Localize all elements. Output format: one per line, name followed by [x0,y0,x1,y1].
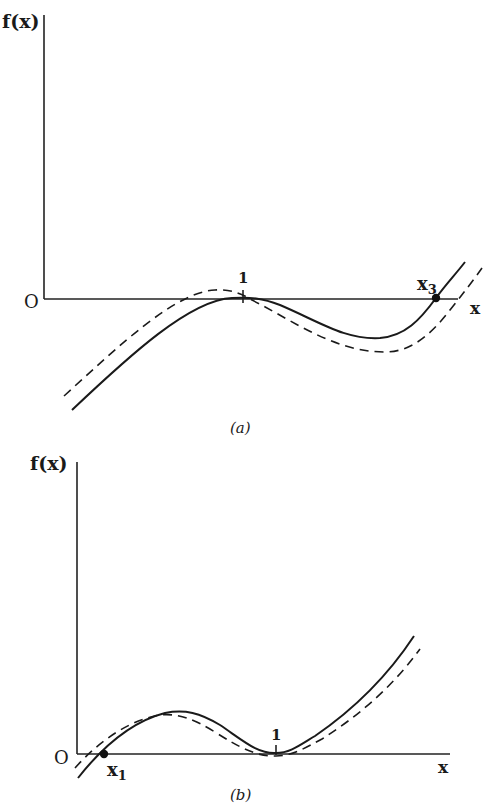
figure: f(x) O 1 x3 x (a) f(x) O 1 x1 x (b) [0,0,492,806]
panel-b: f(x) O 1 x1 x (b) [30,452,450,804]
x-axis-label-b: x [438,757,449,777]
y-axis-label-a: f(x) [2,10,39,32]
x-axis-label-a: x [470,298,481,318]
curve-solid-a [72,262,465,410]
caption-a: (a) [230,419,251,437]
caption-b: (b) [230,786,251,804]
tick-label-1-a: 1 [238,269,248,287]
origin-label-b: O [54,747,69,768]
root-label-x3: x3 [417,273,437,297]
y-axis-label-b: f(x) [30,452,67,474]
curve-dashed-b [75,649,420,768]
origin-label-a: O [24,291,39,312]
panel-a: f(x) O 1 x3 x (a) [2,10,482,437]
root-point-x1 [100,750,108,758]
curve-solid-b [78,636,414,778]
tick-label-1-b: 1 [271,726,281,744]
root-label-x1: x1 [107,759,127,783]
